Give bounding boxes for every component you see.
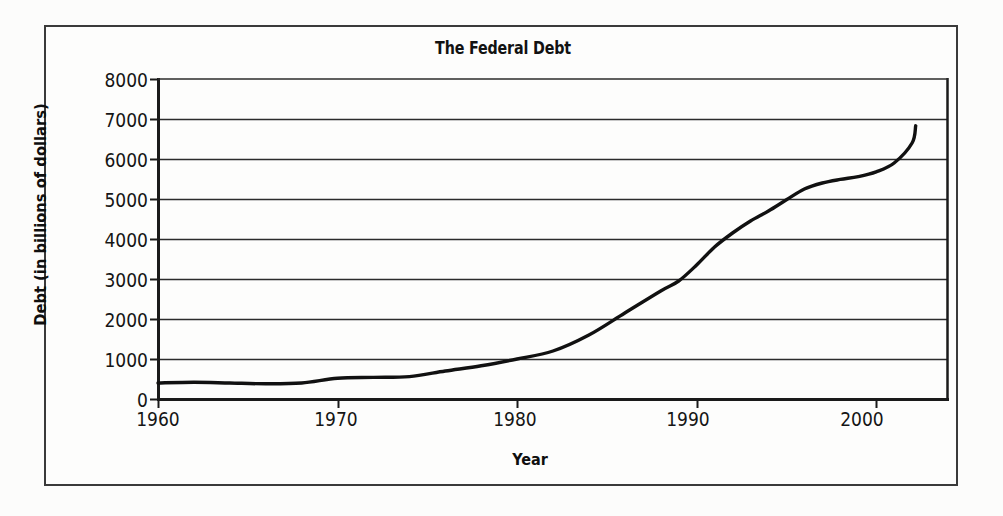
y-tick-label-1000: 1000 — [85, 349, 148, 371]
x-tick-label-1990: 1990 — [652, 408, 724, 430]
figure-page: The Federal Debt 8000 7000 6000 5000 400… — [0, 0, 1003, 516]
y-tick-label-6000: 6000 — [85, 149, 148, 171]
y-axis-title: Debt (in billions of dollars) — [31, 100, 50, 330]
x-axis-title: Year — [179, 450, 881, 469]
x-tick-label-1980: 1980 — [479, 408, 551, 430]
x-tick-label-2000: 2000 — [826, 408, 898, 430]
y-tick-label-7000: 7000 — [85, 109, 148, 131]
y-tick-label-8000: 8000 — [85, 69, 148, 91]
y-tick-label-4000: 4000 — [85, 229, 148, 251]
x-tick-label-1960: 1960 — [122, 408, 194, 430]
y-tick-label-3000: 3000 — [85, 269, 148, 291]
chart-title: The Federal Debt — [119, 38, 887, 58]
y-tick-label-5000: 5000 — [85, 189, 148, 211]
y-tick-label-2000: 2000 — [85, 309, 148, 331]
x-tick-label-1970: 1970 — [300, 408, 372, 430]
